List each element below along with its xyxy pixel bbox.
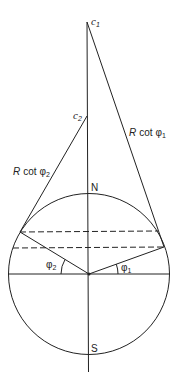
label-north: N bbox=[91, 182, 98, 193]
label-r-cot-phi2: Rcotφ2 bbox=[13, 166, 50, 178]
angle-arc-phi1 bbox=[116, 264, 118, 274]
label-c1: c1 bbox=[91, 15, 100, 28]
polar-axis bbox=[87, 22, 89, 372]
parallel-phi1-dashed bbox=[13, 247, 164, 248]
conic-projection-diagram: c1 c2 Rcotφ1 Rcotφ2 N S φ1 φ2 bbox=[0, 0, 177, 386]
label-phi1: φ1 bbox=[121, 262, 131, 274]
angle-arc-phi2 bbox=[61, 259, 65, 274]
center-point bbox=[88, 273, 91, 276]
label-r-cot-phi1: Rcotφ1 bbox=[129, 127, 166, 139]
parallel-phi2-dashed bbox=[20, 231, 158, 232]
label-c2: c2 bbox=[73, 109, 82, 122]
label-south: S bbox=[91, 343, 98, 354]
label-phi2: φ2 bbox=[46, 259, 56, 271]
